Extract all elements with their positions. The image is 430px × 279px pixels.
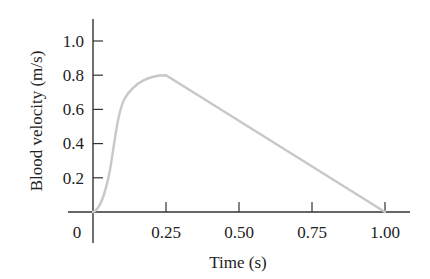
x-tick-label-0.75: 0.75 bbox=[297, 223, 327, 242]
velocity-curve bbox=[93, 75, 385, 212]
x-tick-label-0: 0 bbox=[73, 223, 82, 242]
x-ticks bbox=[166, 202, 385, 212]
y-tick-label-0.8: 0.8 bbox=[63, 66, 84, 85]
y-ticks bbox=[93, 41, 103, 178]
x-tick-label-0.50: 0.50 bbox=[224, 223, 254, 242]
chart-canvas: 0.2 0.4 0.6 0.8 1.0 0 0.25 0.50 0.75 1.0… bbox=[0, 0, 430, 279]
y-tick-label-1.0: 1.0 bbox=[63, 32, 84, 51]
y-tick-label-0.2: 0.2 bbox=[63, 169, 84, 188]
x-axis-title: Time (s) bbox=[209, 253, 266, 272]
x-tick-label-1.00: 1.00 bbox=[370, 223, 400, 242]
y-axis-title: Blood velocity (m/s) bbox=[27, 51, 46, 192]
x-tick-label-0.25: 0.25 bbox=[151, 223, 181, 242]
y-tick-label-0.6: 0.6 bbox=[63, 100, 84, 119]
y-tick-label-0.4: 0.4 bbox=[63, 134, 85, 153]
